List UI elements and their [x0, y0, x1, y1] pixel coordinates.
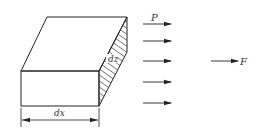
front-face — [21, 71, 99, 106]
dz-label: dz — [108, 54, 119, 64]
element-diagram: dz dx P F — [0, 0, 262, 134]
resultant-force-label: F — [239, 56, 248, 67]
pressure-arrows — [143, 24, 171, 103]
dx-label: dx — [54, 108, 65, 118]
diagram-canvas: dz dx P F — [0, 0, 262, 134]
pressure-label: P — [150, 12, 158, 23]
